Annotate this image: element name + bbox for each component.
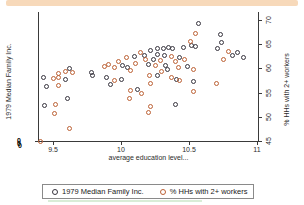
workers-point bbox=[127, 96, 132, 101]
top-accent-band bbox=[6, 0, 298, 6]
income-point bbox=[151, 57, 156, 62]
workers-point bbox=[38, 139, 43, 144]
x-axis-tick bbox=[121, 142, 122, 145]
workers-point bbox=[214, 81, 219, 86]
income-point bbox=[148, 48, 153, 53]
income-point bbox=[235, 50, 240, 55]
right-y-axis-tick-label: 45 bbox=[264, 135, 274, 147]
right-y-axis-tick bbox=[259, 44, 262, 45]
right-y-axis-tick-label: 50 bbox=[264, 111, 274, 123]
income-point bbox=[155, 46, 160, 51]
right-y-axis-line bbox=[258, 12, 259, 141]
workers-point bbox=[148, 81, 153, 86]
workers-point bbox=[124, 55, 129, 60]
income-point bbox=[173, 102, 178, 107]
income-point bbox=[108, 82, 113, 87]
workers-point bbox=[159, 69, 164, 74]
income-point bbox=[42, 103, 47, 108]
legend-entry-income: 1979 Median Family Inc. bbox=[52, 187, 144, 196]
legend: 1979 Median Family Inc. % HHs with 2+ wo… bbox=[42, 184, 254, 199]
x-axis-tick bbox=[53, 142, 54, 145]
income-point bbox=[155, 52, 160, 57]
workers-point bbox=[106, 62, 111, 67]
right-y-axis-tick bbox=[259, 93, 262, 94]
income-point bbox=[218, 32, 223, 37]
workers-point bbox=[67, 126, 72, 131]
right-y-axis-tick-label: 60 bbox=[264, 62, 274, 74]
workers-point bbox=[153, 63, 158, 68]
income-point bbox=[119, 77, 124, 82]
workers-point bbox=[226, 49, 231, 54]
x-axis-tick bbox=[257, 142, 258, 145]
workers-point bbox=[158, 58, 163, 63]
workers-point bbox=[169, 75, 174, 80]
income-point bbox=[191, 79, 196, 84]
workers-point bbox=[133, 61, 138, 66]
right-y-axis-tick-label: 55 bbox=[264, 87, 274, 99]
income-point bbox=[241, 55, 246, 60]
workers-point bbox=[193, 31, 198, 36]
workers-point bbox=[128, 68, 133, 73]
workers-point bbox=[191, 89, 196, 94]
income-point bbox=[132, 54, 137, 59]
workers-point bbox=[51, 76, 56, 81]
workers-point bbox=[112, 78, 117, 83]
workers-point bbox=[188, 39, 193, 44]
x-axis-tick-label: 10 bbox=[108, 146, 134, 154]
x-axis-tick-label: 9.5 bbox=[40, 146, 66, 154]
x-axis-line bbox=[38, 141, 259, 142]
legend-label-income: 1979 Median Family Inc. bbox=[62, 187, 144, 196]
right-y-axis-tick bbox=[259, 141, 262, 142]
workers-point bbox=[56, 75, 61, 80]
right-y-axis-tick bbox=[259, 20, 262, 21]
workers-point bbox=[169, 54, 174, 59]
income-point bbox=[193, 44, 198, 49]
income-point bbox=[185, 64, 190, 69]
workers-point bbox=[176, 65, 181, 70]
workers-marker-icon bbox=[160, 189, 166, 195]
green-highlight-bar bbox=[48, 200, 202, 202]
x-axis-tick bbox=[189, 142, 190, 145]
income-point bbox=[162, 53, 167, 58]
income-point bbox=[166, 45, 171, 50]
workers-point bbox=[221, 57, 226, 62]
income-marker-icon bbox=[52, 189, 58, 195]
income-point bbox=[161, 46, 166, 51]
workers-point bbox=[63, 69, 68, 74]
workers-point bbox=[148, 104, 153, 109]
workers-point bbox=[56, 83, 61, 88]
workers-point bbox=[139, 91, 144, 96]
income-point bbox=[44, 84, 49, 89]
x-axis-tick-label: 10.5 bbox=[176, 146, 202, 154]
income-point bbox=[165, 67, 170, 72]
income-point bbox=[196, 21, 201, 26]
workers-point bbox=[146, 110, 151, 115]
income-point bbox=[104, 75, 109, 80]
income-point bbox=[120, 63, 125, 68]
scatter-plot-figure: 0 0 0 1979 Median Family Inc. % HHs with… bbox=[0, 0, 304, 205]
right-y-axis-tick-label: 70 bbox=[264, 14, 274, 26]
x-axis-tick-label: 11 bbox=[244, 146, 270, 154]
workers-point bbox=[147, 73, 152, 78]
income-point bbox=[219, 40, 224, 45]
legend-label-workers: % HHs with 2+ workers bbox=[170, 187, 248, 196]
income-point bbox=[181, 45, 186, 50]
income-point bbox=[41, 75, 46, 80]
income-point bbox=[146, 62, 151, 67]
right-y-axis-tick bbox=[259, 117, 262, 118]
overlap-label: 0 bbox=[18, 142, 22, 149]
right-y-axis-tick bbox=[259, 68, 262, 69]
income-point bbox=[63, 77, 68, 82]
workers-point bbox=[191, 67, 196, 72]
income-point bbox=[65, 96, 70, 101]
workers-point bbox=[182, 57, 187, 62]
workers-point bbox=[177, 78, 182, 83]
left-y-axis-title: 1979 Median Family Inc. bbox=[5, 34, 12, 130]
workers-point bbox=[53, 102, 58, 107]
right-y-axis-tick-label: 65 bbox=[264, 38, 274, 50]
workers-point bbox=[173, 59, 178, 64]
legend-entry-workers: % HHs with 2+ workers bbox=[160, 187, 248, 196]
left-y-axis-line bbox=[38, 12, 39, 141]
workers-point bbox=[116, 59, 121, 64]
x-axis-title: average education level... bbox=[38, 154, 259, 161]
